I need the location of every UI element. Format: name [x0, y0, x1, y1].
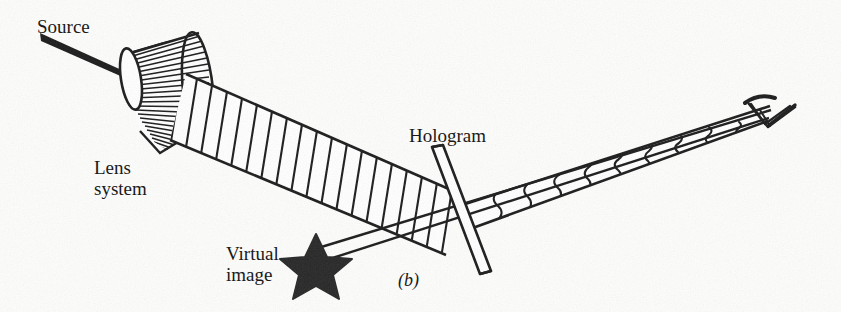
paper-grain: [0, 0, 841, 312]
label-virtual-image: Virtual image: [226, 243, 279, 286]
source-ray-icon: [40, 33, 126, 78]
panel-label: (b): [398, 270, 419, 290]
label-hologram: Hologram: [409, 125, 486, 146]
figure-canvas: Source Lens system Hologram Virtual imag…: [0, 0, 841, 312]
label-source: Source: [37, 16, 90, 37]
star-icon: [280, 234, 352, 299]
optics-diagram: [0, 0, 841, 312]
label-lens-system: Lens system: [94, 157, 147, 200]
